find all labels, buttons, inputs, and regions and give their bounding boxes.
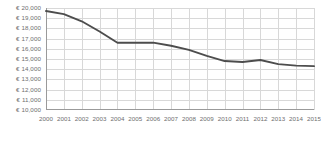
caption-strip [0, 136, 321, 145]
x-tick-label: 2011 [236, 116, 250, 122]
x-tick-label: 2001 [57, 116, 71, 122]
x-tick-label: 2014 [289, 116, 303, 122]
x-tick-label: 2004 [111, 116, 125, 122]
x-axis-labels: 2000 2001 2002 2003 2004 2005 2006 2007 … [0, 0, 321, 145]
x-tick-label: 2007 [164, 116, 178, 122]
x-tick-label: 2009 [200, 116, 214, 122]
x-tick-label: 2005 [128, 116, 142, 122]
x-tick-label: 2010 [218, 116, 232, 122]
x-tick-label: 2003 [93, 116, 107, 122]
x-tick-label: 2015 [307, 116, 321, 122]
x-tick-label: 2002 [75, 116, 89, 122]
x-tick-label: 2012 [253, 116, 267, 122]
x-tick-label: 2008 [182, 116, 196, 122]
x-tick-label: 2006 [146, 116, 160, 122]
line-chart: € 20,000 € 19,000 € 18,000 € 17,000 € 16… [0, 0, 321, 145]
x-tick-label: 2000 [39, 116, 53, 122]
x-tick-label: 2013 [271, 116, 285, 122]
